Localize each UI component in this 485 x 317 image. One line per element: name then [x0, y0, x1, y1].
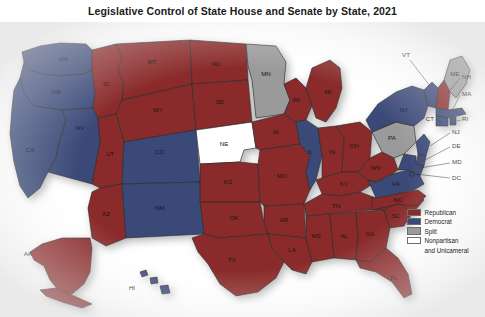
state-AL[interactable] [330, 212, 358, 260]
state-MI[interactable] [306, 60, 342, 122]
legend-item-democrat[interactable]: Democrat [407, 217, 485, 226]
legend-swatch-nonpartisan [407, 237, 421, 245]
state-AZ[interactable] [88, 184, 126, 246]
label-NH: NH [462, 73, 471, 80]
label-RI: RI [462, 115, 468, 122]
legend-item-split[interactable]: Split [407, 227, 485, 236]
legend-swatch-split [407, 227, 421, 235]
legend-item-republican[interactable]: Republican [407, 208, 485, 217]
map-legend: Republican Democrat Split Nonpartisan an… [407, 208, 485, 255]
map-svg: WA OR CA NV ID MT WY UT CO AZ NM ND SD N… [0, 22, 485, 317]
state-AK[interactable] [30, 238, 92, 294]
state-MN[interactable] [246, 44, 290, 118]
label-HI: HI [129, 284, 135, 291]
label-MA: MA [462, 90, 472, 97]
state-CT[interactable] [436, 116, 448, 126]
label-NJ: NJ [452, 128, 460, 135]
state-KS[interactable] [200, 162, 260, 202]
legend-label-split: Split [425, 227, 437, 236]
state-HI-1[interactable] [140, 270, 148, 277]
label-VT: VT [402, 51, 410, 58]
state-IN[interactable] [318, 126, 344, 178]
legend-item-nonpartisan[interactable]: Nonpartisan [407, 236, 485, 245]
legend-swatch-republican [407, 209, 421, 217]
legend-label-republican: Republican [425, 208, 457, 217]
choropleth-map: WA OR CA NV ID MT WY UT CO AZ NM ND SD N… [0, 22, 485, 317]
state-TX[interactable] [192, 234, 284, 296]
legend-item-nonpartisan-cont: and Unicameral [407, 246, 485, 255]
label-DC: DC [452, 174, 461, 181]
state-SD[interactable] [192, 80, 252, 130]
state-NM[interactable] [122, 182, 204, 238]
state-HI-3[interactable] [160, 285, 170, 294]
legend-label-democrat: Democrat [425, 217, 452, 226]
chart-title: Legislative Control of State House and S… [0, 5, 485, 17]
state-RI[interactable] [450, 117, 456, 125]
state-MO[interactable] [258, 144, 310, 206]
state-HI-2[interactable] [150, 277, 158, 284]
state-MS[interactable] [306, 214, 334, 262]
label-MD: MD [452, 158, 462, 165]
state-OK[interactable] [200, 202, 268, 238]
label-CT: CT [426, 115, 434, 122]
map-figure: Legislative Control of State House and S… [0, 0, 485, 317]
legend-label-nonpartisan: Nonpartisan [425, 236, 459, 245]
state-ND[interactable] [190, 40, 248, 84]
legend-label-continuation: and Unicameral [425, 246, 469, 255]
label-DE: DE [452, 142, 461, 149]
state-DC[interactable] [410, 172, 414, 176]
state-NJ[interactable] [416, 134, 430, 156]
legend-swatch-democrat [407, 218, 421, 226]
state-AR[interactable] [264, 204, 306, 238]
